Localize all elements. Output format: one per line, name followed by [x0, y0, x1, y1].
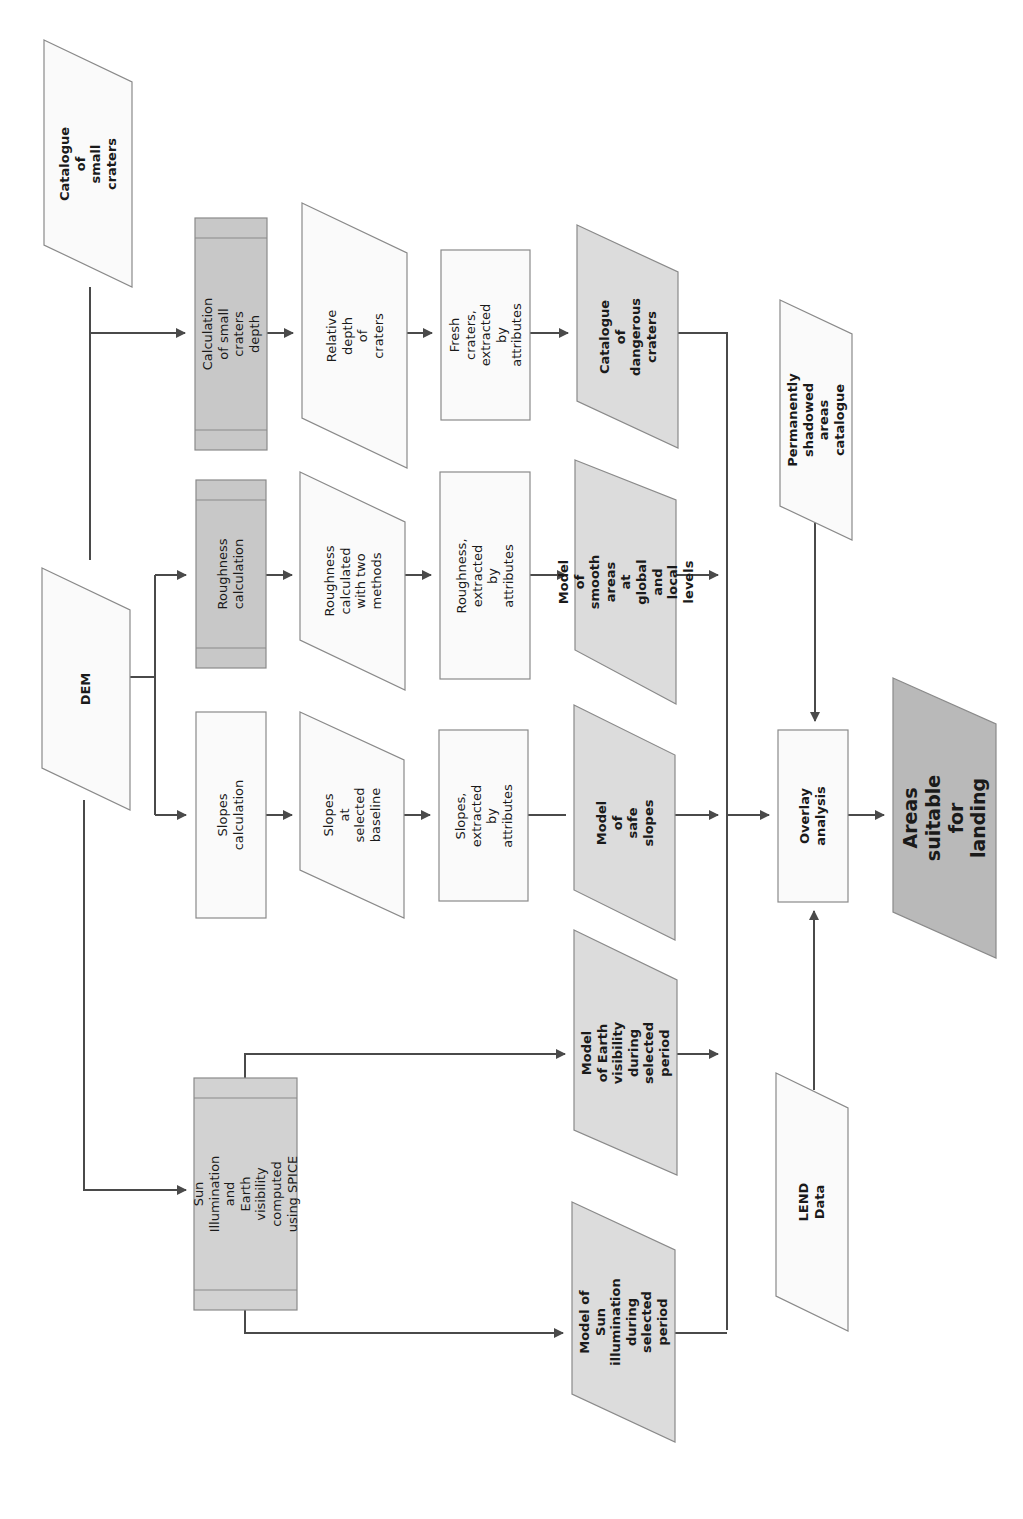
- safe-slopes-node: Model of safe slopes: [574, 705, 675, 940]
- roughness-extracted-node: Roughness, extracted by attributes: [440, 472, 530, 679]
- slopes-calc-label: Slopes calculation: [215, 780, 246, 851]
- areas-suitable-label: Areas suitable for landing: [899, 775, 990, 861]
- relative-depth-label: Relative depth of craters: [323, 309, 385, 362]
- overlay-analysis-label: Overlay analysis: [797, 786, 828, 846]
- roughness-two-methods-node: Roughness calculated with two methods: [300, 472, 405, 690]
- earth-visibility-label: Model of Earth visibility during selecte…: [579, 1021, 673, 1084]
- catalogue-small-craters-label: Catalogue of small craters: [57, 126, 119, 200]
- dem-label: DEM: [78, 673, 94, 706]
- sun-illumination-model-label: Model of Sun illumination during selecte…: [577, 1278, 671, 1366]
- safe-slopes-label: Model of safe slopes: [593, 797, 655, 848]
- slopes-baseline-label: Slopes at selected baseline: [321, 788, 383, 843]
- overlay-analysis-node: Overlay analysis: [778, 730, 848, 902]
- earth-visibility-node: Model of Earth visibility during selecte…: [574, 930, 677, 1175]
- fresh-craters-node: Fresh craters, extracted by attributes: [441, 250, 530, 420]
- roughness-calc-label: Roughness calculation: [215, 539, 246, 610]
- calc-crater-depth-label: Calculation of small craters depth: [200, 298, 262, 371]
- lend-data-label: LEND Data: [796, 1183, 827, 1222]
- roughness-two-methods-label: Roughness calculated with two methods: [321, 546, 383, 617]
- slopes-extracted-node: Slopes, extracted by attributes: [439, 730, 528, 901]
- roughness-extracted-label: Roughness, extracted by attributes: [454, 538, 516, 613]
- smooth-areas-node: Model of smooth areas at global and loca…: [575, 460, 676, 704]
- calc-crater-depth-node: Calculation of small craters depth: [195, 218, 267, 450]
- catalogue-dangerous-label: Catalogue of dangerous craters: [596, 298, 658, 376]
- catalogue-dangerous-node: Catalogue of dangerous craters: [577, 225, 678, 448]
- dem-node: DEM: [42, 568, 130, 810]
- landing-site-flowchart: Catalogue of small craters DEM Calculati…: [0, 0, 1023, 1519]
- roughness-calc-node: Roughness calculation: [196, 480, 266, 668]
- spice-computation-node: Sun Illumination and Earth visibility co…: [194, 1078, 297, 1310]
- sun-illumination-model-node: Model of Sun illumination during selecte…: [572, 1202, 675, 1442]
- smooth-areas-label: Model of smooth areas at global and loca…: [555, 555, 695, 610]
- slopes-calc-node: Slopes calculation: [196, 712, 266, 918]
- slopes-baseline-node: Slopes at selected baseline: [300, 712, 404, 918]
- catalogue-small-craters-node: Catalogue of small craters: [44, 40, 132, 287]
- shadowed-areas-node: Permanently shadowed areas catalogue: [780, 300, 852, 540]
- fresh-craters-label: Fresh craters, extracted by attributes: [447, 303, 525, 366]
- slopes-extracted-label: Slopes, extracted by attributes: [452, 784, 514, 847]
- areas-suitable-node: Areas suitable for landing: [893, 678, 996, 958]
- shadowed-areas-label: Permanently shadowed areas catalogue: [785, 373, 847, 467]
- lend-data-node: LEND Data: [776, 1073, 848, 1331]
- spice-computation-label: Sun Illumination and Earth visibility co…: [191, 1156, 300, 1233]
- relative-depth-node: Relative depth of craters: [302, 203, 407, 468]
